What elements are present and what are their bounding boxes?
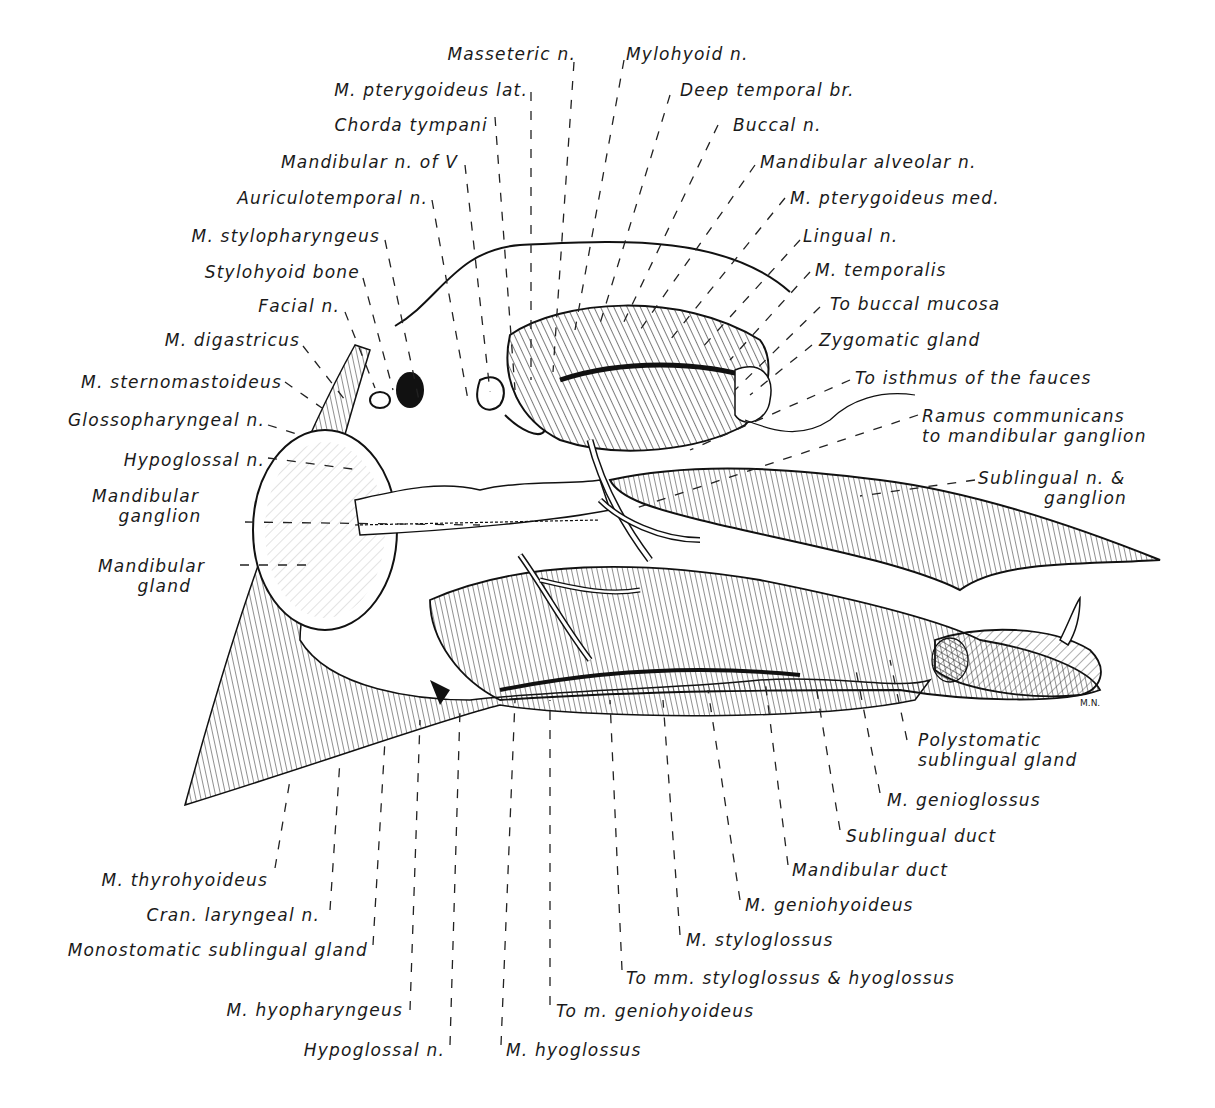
label-m-temporalis: M. temporalis <box>815 260 947 280</box>
label-m-stylopharyngeus: M. stylopharyngeus <box>120 226 380 246</box>
label-m-geniohyoideus: M. geniohyoideus <box>745 895 914 915</box>
label-monostomatic-sublingual-gland: Monostomatic sublingual gland <box>10 940 368 960</box>
label-mandibular-gland: Mandibular gland <box>98 556 205 596</box>
label-to-isthmus-of-fauces: To isthmus of the fauces <box>855 368 1091 388</box>
label-sublingual-n-ganglion: Sublingual n. & ganglion <box>978 468 1132 508</box>
label-m-hyopharyngeus: M. hyopharyngeus <box>150 1000 403 1020</box>
label-cran-laryngeal-n: Cran. laryngeal n. <box>80 905 320 925</box>
label-mandibular-alveolar-n: Mandibular alveolar n. <box>760 152 977 172</box>
label-auriculotemporal-n: Auriculotemporal n. <box>160 188 428 208</box>
label-deep-temporal-br: Deep temporal br. <box>680 80 855 100</box>
label-buccal-n: Buccal n. <box>733 115 822 135</box>
label-mandibular-n-of-v: Mandibular n. of V <box>200 152 458 172</box>
label-m-pterygoideus-lat: M. pterygoideus lat. <box>260 80 528 100</box>
label-m-thyrohyoideus: M. thyrohyoideus <box>40 870 268 890</box>
label-mandibular-duct: Mandibular duct <box>792 860 948 880</box>
label-glossopharyngeal-n: Glossopharyngeal n. <box>10 410 265 430</box>
label-chorda-tympani: Chorda tympani <box>260 115 488 135</box>
label-to-m-geniohyoideus: To m. geniohyoideus <box>556 1001 754 1021</box>
label-m-hyoglossus: M. hyoglossus <box>506 1040 642 1060</box>
label-mylohyoid-n: Mylohyoid n. <box>626 44 749 64</box>
label-m-pterygoideus-med: M. pterygoideus med. <box>790 188 1000 208</box>
label-ramus-communicans: Ramus communicans to mandibular ganglion <box>922 406 1147 446</box>
artist-signature: M.N. <box>1080 698 1100 708</box>
label-to-buccal-mucosa: To buccal mucosa <box>830 294 1000 314</box>
label-facial-n: Facial n. <box>160 296 340 316</box>
label-zygomatic-gland: Zygomatic gland <box>819 330 981 350</box>
label-mandibular-ganglion: Mandibular ganglion <box>92 486 201 526</box>
label-lingual-n: Lingual n. <box>803 226 898 246</box>
label-polystomatic-sublingual-gland: Polystomatic sublingual gland <box>918 730 1077 770</box>
anatomical-figure: Masseteric n. M. pterygoideus lat. Chord… <box>0 0 1215 1108</box>
label-masseteric-n: Masseteric n. <box>380 44 576 64</box>
label-m-sternomastoideus: M. sternomastoideus <box>20 372 282 392</box>
label-hypoglossal-n-upper: Hypoglossal n. <box>60 450 265 470</box>
label-m-genioglossus: M. genioglossus <box>887 790 1041 810</box>
label-sublingual-duct: Sublingual duct <box>846 826 996 846</box>
label-hypoglossal-n-lower: Hypoglossal n. <box>200 1040 445 1060</box>
pterygoid-muscle-shape <box>507 306 768 451</box>
label-m-digastricus: M. digastricus <box>80 330 300 350</box>
label-to-mm-styloglossus-hyoglossus: To mm. styloglossus & hyoglossus <box>626 968 955 988</box>
label-stylohyoid-bone: Stylohyoid bone <box>120 262 360 282</box>
canine-tooth <box>1060 598 1080 645</box>
label-m-styloglossus: M. styloglossus <box>686 930 833 950</box>
sublingual-gland-shape <box>355 480 610 535</box>
